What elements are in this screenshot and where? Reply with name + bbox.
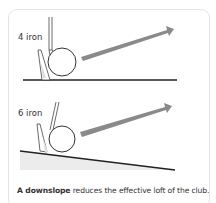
golf-diagram (0, 0, 216, 203)
caption-rest: reduces the effective loft of the club. (70, 186, 209, 195)
diagram-6-iron (20, 102, 175, 170)
diagram-4-iron (23, 17, 177, 80)
caption: A downslope reduces the effective loft o… (17, 186, 209, 195)
club-label-4-iron: 4 iron (18, 32, 42, 42)
caption-bold: A downslope (17, 186, 70, 195)
club-label-6-iron: 6 iron (18, 108, 42, 118)
